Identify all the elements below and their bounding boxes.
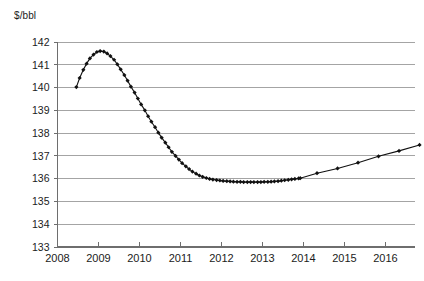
x-tick-label-2016: 2016 xyxy=(373,252,397,264)
x-tick-label-2009: 2009 xyxy=(86,252,110,264)
y-tick-marks xyxy=(54,42,58,247)
x-tick-label-2011: 2011 xyxy=(169,252,193,264)
y-tick-label-134: 134 xyxy=(32,218,50,230)
data-point-marker xyxy=(293,177,297,181)
y-tick-label-138: 138 xyxy=(32,127,50,139)
data-point-marker xyxy=(356,161,360,165)
y-tick-label-137: 137 xyxy=(32,150,50,162)
data-point-marker xyxy=(208,177,212,181)
y-tick-label-135: 135 xyxy=(32,195,50,207)
y-tick-labels: 142141140139138137136135134133 xyxy=(32,36,50,253)
x-tick-labels: 200820092010201120122013201420152016 xyxy=(45,252,397,264)
x-tick-label-2014: 2014 xyxy=(291,252,315,264)
data-series-oil-price xyxy=(76,51,419,182)
x-tick-label-2010: 2010 xyxy=(127,252,151,264)
data-point-marker xyxy=(242,180,246,184)
data-point-marker xyxy=(102,49,106,53)
data-point-marker xyxy=(231,180,235,184)
y-tick-label-139: 139 xyxy=(32,104,50,116)
data-point-markers xyxy=(74,49,421,184)
x-tick-marks xyxy=(58,242,386,247)
data-point-marker xyxy=(194,172,198,176)
data-point-marker xyxy=(81,68,85,72)
data-point-marker xyxy=(252,180,256,184)
y-tick-label-141: 141 xyxy=(32,59,50,71)
data-point-marker xyxy=(376,154,380,158)
data-point-marker xyxy=(98,49,102,53)
data-point-marker xyxy=(262,180,266,184)
data-point-marker xyxy=(272,179,276,183)
x-tick-label-2008: 2008 xyxy=(45,252,69,264)
y-tick-label-140: 140 xyxy=(32,81,50,93)
data-point-marker xyxy=(276,179,280,183)
chart-plot-area: 142141140139138137136135134133 200820092… xyxy=(0,0,424,281)
y-tick-label-142: 142 xyxy=(32,36,50,48)
data-point-marker xyxy=(74,85,78,89)
data-point-marker xyxy=(78,76,82,80)
x-tick-label-2015: 2015 xyxy=(332,252,356,264)
data-point-marker xyxy=(397,149,401,153)
x-tick-label-2013: 2013 xyxy=(250,252,274,264)
gridlines xyxy=(58,42,416,247)
data-point-marker xyxy=(290,177,294,181)
series-line-oil-price xyxy=(76,51,419,182)
y-tick-label-133: 133 xyxy=(32,241,50,253)
x-tick-label-2012: 2012 xyxy=(209,252,233,264)
y-tick-label-136: 136 xyxy=(32,172,50,184)
data-point-marker xyxy=(211,177,215,181)
data-point-marker xyxy=(221,179,225,183)
data-point-marker xyxy=(279,179,283,183)
data-point-marker xyxy=(204,176,208,180)
data-point-marker xyxy=(136,96,140,100)
data-point-marker xyxy=(335,166,339,170)
data-point-marker xyxy=(315,171,319,175)
data-point-marker xyxy=(417,143,421,147)
oil-price-chart: $/bbl 142141140139138137136135134133 200… xyxy=(0,0,424,281)
